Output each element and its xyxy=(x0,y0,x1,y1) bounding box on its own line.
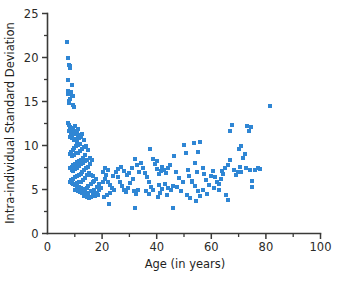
data-point xyxy=(118,180,122,184)
data-point xyxy=(196,150,200,154)
data-point xyxy=(250,185,254,189)
data-point xyxy=(80,132,84,136)
data-point xyxy=(169,188,173,192)
data-point xyxy=(137,170,141,174)
data-point xyxy=(268,104,272,108)
x-axis-title: Age (in years) xyxy=(145,257,226,271)
data-point xyxy=(239,170,243,174)
data-point xyxy=(136,188,140,192)
data-point xyxy=(187,174,191,178)
data-point xyxy=(198,194,202,198)
data-point xyxy=(248,168,252,172)
data-point xyxy=(258,167,262,171)
data-point xyxy=(174,170,178,174)
y-tick-label: 20 xyxy=(24,51,39,65)
y-tick-label: 5 xyxy=(31,183,38,197)
data-point xyxy=(175,185,179,189)
data-point xyxy=(243,152,247,156)
data-point xyxy=(164,171,168,175)
data-point xyxy=(82,138,86,142)
data-point xyxy=(134,192,138,196)
data-point xyxy=(196,189,200,193)
data-point xyxy=(193,184,197,188)
data-point xyxy=(232,168,236,172)
data-point xyxy=(103,166,107,170)
data-point xyxy=(249,125,253,129)
data-point xyxy=(157,183,161,187)
data-point xyxy=(101,170,105,174)
data-point xyxy=(133,157,137,161)
data-point xyxy=(201,188,205,192)
data-point xyxy=(193,161,197,165)
data-point xyxy=(198,140,202,144)
data-point xyxy=(124,190,128,194)
data-point xyxy=(66,56,70,60)
data-point xyxy=(160,165,164,169)
data-point xyxy=(65,40,69,44)
data-point xyxy=(212,186,216,190)
data-point xyxy=(201,166,205,170)
data-point xyxy=(86,148,90,152)
data-point xyxy=(226,163,230,167)
data-point xyxy=(151,188,155,192)
data-point xyxy=(90,158,94,162)
data-point xyxy=(220,169,224,173)
data-point xyxy=(155,159,159,163)
data-point xyxy=(122,169,126,173)
data-point xyxy=(111,174,115,178)
data-point xyxy=(75,181,79,185)
data-point xyxy=(158,191,162,195)
data-markers-layer xyxy=(65,40,272,210)
data-point xyxy=(228,158,232,162)
data-point xyxy=(194,199,198,203)
x-tick-label: 20 xyxy=(95,240,110,254)
data-point xyxy=(226,198,230,202)
data-point xyxy=(102,195,106,199)
data-point xyxy=(147,192,151,196)
data-point xyxy=(171,206,175,210)
data-point xyxy=(239,144,243,148)
data-point xyxy=(130,166,134,170)
data-point xyxy=(106,168,110,172)
data-point xyxy=(69,90,73,94)
data-point xyxy=(219,177,223,181)
data-point xyxy=(163,182,167,186)
data-point xyxy=(159,169,163,173)
data-point xyxy=(192,141,196,145)
data-point xyxy=(145,175,149,179)
data-point xyxy=(120,184,124,188)
scatter-plot-figure: 0510152025020406080100 Age (in years) In… xyxy=(0,0,343,282)
data-point xyxy=(82,194,86,198)
data-point xyxy=(101,180,105,184)
data-point xyxy=(97,188,101,192)
data-point xyxy=(155,167,159,171)
data-point xyxy=(247,129,251,133)
data-point xyxy=(188,196,192,200)
data-point xyxy=(68,64,72,68)
data-point xyxy=(106,180,110,184)
axes-layer xyxy=(42,14,321,240)
y-axis-title: Intra-individual Standard Deviation xyxy=(3,22,17,224)
x-tick-label: 60 xyxy=(204,240,219,254)
data-point xyxy=(168,163,172,167)
data-point xyxy=(139,161,143,165)
y-tick-label: 0 xyxy=(31,227,38,241)
data-point xyxy=(241,156,245,160)
y-tick-label: 10 xyxy=(24,139,39,153)
data-point xyxy=(96,193,100,197)
data-point xyxy=(127,171,131,175)
data-point xyxy=(70,83,74,87)
data-point xyxy=(224,193,228,197)
data-point xyxy=(234,173,238,177)
data-point xyxy=(66,78,70,82)
data-point xyxy=(245,124,249,128)
data-point xyxy=(97,182,101,186)
data-point xyxy=(141,166,145,170)
data-point xyxy=(147,180,151,184)
data-point xyxy=(73,124,77,128)
data-point xyxy=(166,166,170,170)
data-point xyxy=(205,192,209,196)
y-tick-label: 15 xyxy=(24,95,39,109)
data-point xyxy=(135,163,139,167)
data-point xyxy=(250,179,254,183)
